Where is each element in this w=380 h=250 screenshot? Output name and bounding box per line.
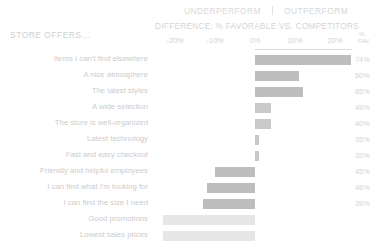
row-fav-value: 35%	[355, 135, 370, 144]
chart-rows: Items I can't find elsewhere74%A nice at…	[0, 52, 380, 244]
chart-row: Items I can't find elsewhere74%	[0, 52, 380, 68]
row-fav-value: 46%	[355, 183, 370, 192]
chart-row: The store is well-organized40%	[0, 116, 380, 132]
x-tick-neg20pct: -20%	[160, 36, 190, 45]
row-bar-area	[155, 116, 350, 132]
row-label: Latest technology	[87, 134, 148, 143]
row-fav-value: 65%	[355, 87, 370, 96]
legend-divider	[272, 6, 273, 15]
bar-positive	[255, 119, 271, 129]
chart-row: A wide selection49%	[0, 100, 380, 116]
bar-negative	[163, 231, 255, 241]
bar-positive	[255, 151, 259, 161]
row-fav-value: 49%	[355, 103, 370, 112]
fav-column-header: % FAV	[358, 30, 378, 44]
bar-positive	[255, 103, 271, 113]
row-label: Lowest sales prices	[80, 230, 148, 239]
row-bar-area	[155, 164, 350, 180]
row-label: The latest styles	[92, 86, 148, 95]
row-bar-area	[155, 148, 350, 164]
chart-row: Friendly and helpful employees45%	[0, 164, 380, 180]
x-tick-10pct: 10%	[280, 36, 310, 45]
x-tick-0pct: 0%	[240, 36, 270, 45]
bar-negative	[207, 183, 255, 193]
bar-negative	[215, 167, 255, 177]
chart-row: The latest styles65%	[0, 84, 380, 100]
row-label: A nice atmosphere	[83, 70, 148, 79]
chart-row: Good promotions	[0, 212, 380, 228]
performance-legend: UNDERPERFORM OUTPERFORM	[152, 4, 380, 17]
underperform-label: UNDERPERFORM	[184, 6, 261, 16]
chart-row: I can find what I'm looking for46%	[0, 180, 380, 196]
row-bar-area	[155, 52, 350, 68]
chart-axis-title: DIFFERENCE: % FAVORABLE VS. COMPETITORS	[152, 22, 362, 31]
outperform-label: OUTPERFORM	[284, 6, 348, 16]
category-axis-label: STORE OFFERS...	[10, 30, 90, 40]
row-fav-value: 60%	[355, 71, 370, 80]
plot-top-rule	[255, 49, 352, 50]
row-bar-area	[155, 180, 350, 196]
row-bar-area	[155, 212, 350, 228]
chart-row: Latest technology35%	[0, 132, 380, 148]
chart-row: Lowest sales prices	[0, 228, 380, 244]
chart-row: Fast and easy checkout33%	[0, 148, 380, 164]
row-label: I can find the size I need	[63, 198, 148, 207]
fav-word: FAV	[358, 37, 378, 44]
row-fav-value: 39%	[355, 199, 370, 208]
row-bar-area	[155, 100, 350, 116]
row-label: Items I can't find elsewhere	[54, 54, 148, 63]
diverging-bar-chart: UNDERPERFORM OUTPERFORM DIFFERENCE: % FA…	[0, 0, 380, 250]
row-label: I can find what I'm looking for	[47, 182, 148, 191]
bar-negative	[163, 215, 255, 225]
row-label: Good promotions	[88, 214, 148, 223]
row-fav-value: 33%	[355, 151, 370, 160]
row-bar-area	[155, 132, 350, 148]
row-fav-value: 45%	[355, 167, 370, 176]
chart-row: A nice atmosphere60%	[0, 68, 380, 84]
bar-positive	[255, 71, 299, 81]
row-fav-value: 40%	[355, 119, 370, 128]
x-tick-neg10pct: -10%	[200, 36, 230, 45]
row-label: A wide selection	[92, 102, 148, 111]
row-bar-area	[155, 84, 350, 100]
row-bar-area	[155, 228, 350, 244]
row-bar-area	[155, 196, 350, 212]
row-fav-value: 74%	[355, 55, 370, 64]
bar-negative	[203, 199, 255, 209]
row-label: The store is well-organized	[55, 118, 148, 127]
row-label: Friendly and helpful employees	[40, 166, 148, 175]
chart-row: I can find the size I need39%	[0, 196, 380, 212]
row-label: Fast and easy checkout	[66, 150, 148, 159]
bar-positive	[255, 87, 303, 97]
row-bar-area	[155, 68, 350, 84]
fav-percent-symbol: %	[358, 30, 378, 37]
x-tick-20pct: 20%	[320, 36, 350, 45]
bar-positive	[255, 135, 259, 145]
bar-positive	[255, 55, 351, 65]
